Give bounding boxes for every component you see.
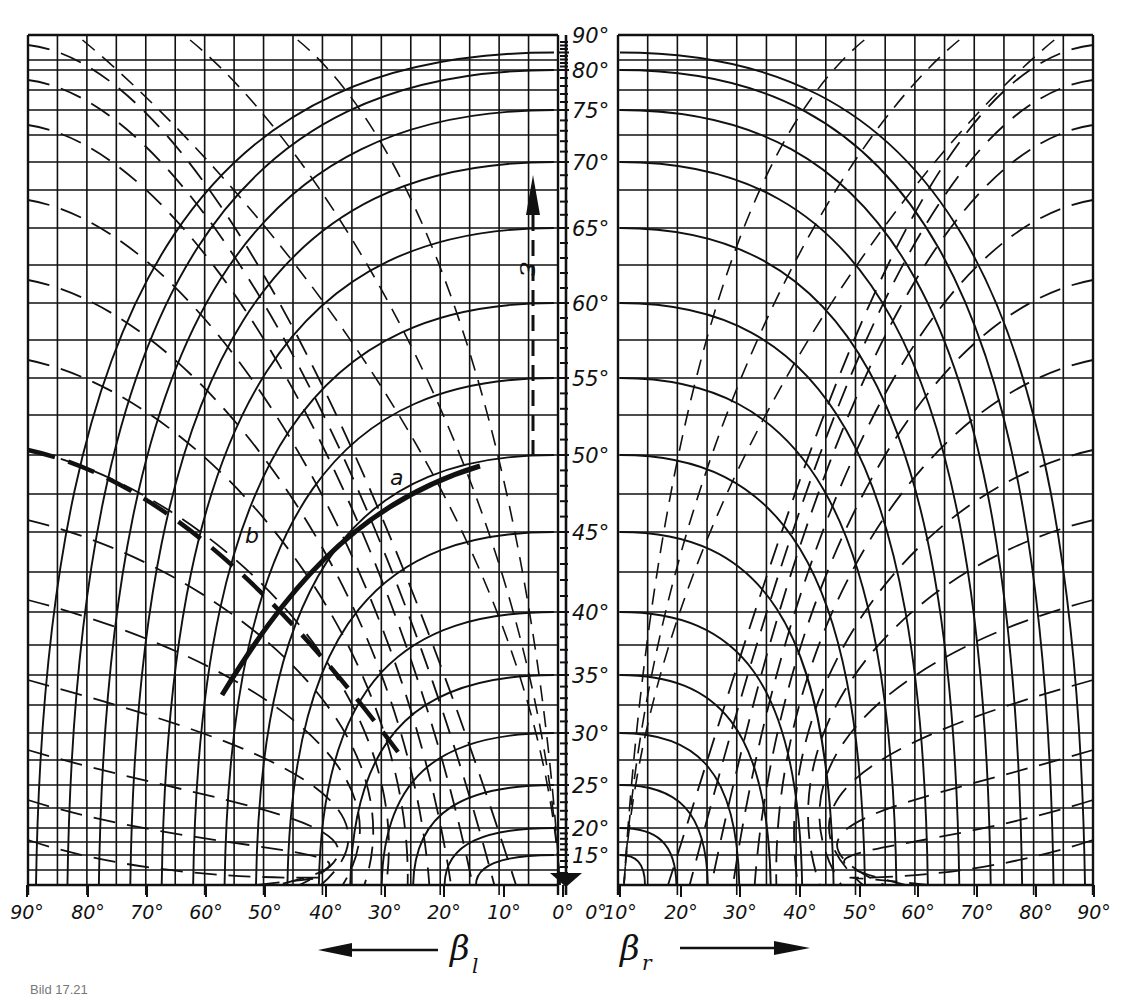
epsilon-tick-label: 25° [572, 774, 609, 798]
figure-caption: Bild 17.21 [30, 982, 88, 996]
beta-right-tick-label: 80° [1019, 901, 1053, 923]
nomogram-chart: 90°80°75°70°65°60°55°50°45°40°35°30°25°2… [0, 0, 1139, 996]
curve-a-label: a [390, 465, 403, 490]
epsilon-tick-label: 70° [572, 151, 609, 175]
beta-left-tick-label: 20° [427, 901, 461, 923]
epsilon-tick-label: 15° [572, 844, 609, 868]
beta-left-tick-label: 90° [10, 901, 44, 923]
beta-right-tick-label: 10° [603, 901, 637, 923]
beta-right-tick-label: 60° [901, 901, 935, 923]
beta-left-arrow-icon [318, 943, 438, 957]
curve-family-left [28, 40, 560, 885]
epsilon-tick-label: 65° [572, 217, 609, 241]
beta-left-tick-label: 10° [487, 901, 521, 923]
beta-left-tick-label: 50° [248, 901, 282, 923]
beta-left-subscript: l [472, 954, 478, 978]
epsilon-tick-label: 55° [572, 367, 609, 391]
beta-left-tick-label: 80° [71, 901, 105, 923]
beta-right-tick-label: 40° [783, 901, 817, 923]
beta-right-tick-label: 20° [664, 901, 698, 923]
curve-b-label: b [245, 523, 259, 548]
grid-right-panel [618, 35, 1093, 895]
beta-right-tick-label: 70° [960, 901, 994, 923]
beta-right-subscript: r [642, 951, 653, 975]
beta-left-tick-label: 60° [189, 901, 223, 923]
beta-right-symbol: β [618, 928, 640, 968]
epsilon-tick-label: 45° [572, 521, 609, 545]
beta-right-tick-label: 50° [843, 901, 877, 923]
epsilon-tick-label: 90° [572, 24, 609, 48]
beta-tick-labels: 90°80°70°60°50°40°30°20°10°0°10°20°30°40… [10, 885, 1111, 923]
epsilon-tick-label: 80° [572, 59, 609, 83]
beta-right-arrow-icon [680, 941, 810, 955]
epsilon-tick-label: 40° [572, 601, 609, 625]
beta-right-tick-label: 30° [723, 901, 757, 923]
beta-left-tick-label: 0° [552, 901, 574, 923]
epsilon-tick-label: 75° [572, 99, 609, 123]
epsilon-tick-label: 20° [572, 817, 609, 841]
epsilon-tick-labels: 90°80°75°70°65°60°55°50°45°40°35°30°25°2… [572, 24, 609, 868]
curve-family-right [620, 40, 1093, 885]
epsilon-tick-label: 35° [572, 664, 609, 688]
epsilon-symbol: ε [513, 262, 546, 277]
epsilon-tick-label: 50° [572, 444, 609, 468]
beta-left-tick-label: 40° [309, 901, 343, 923]
epsilon-tick-label: 60° [572, 292, 609, 316]
beta-left-symbol: β [448, 928, 470, 968]
epsilon-tick-label: 30° [572, 722, 609, 746]
beta-right-tick-label: 0° [585, 901, 607, 923]
beta-left-tick-label: 30° [368, 901, 402, 923]
beta-right-tick-label: 90° [1077, 901, 1111, 923]
beta-left-tick-label: 70° [130, 901, 164, 923]
